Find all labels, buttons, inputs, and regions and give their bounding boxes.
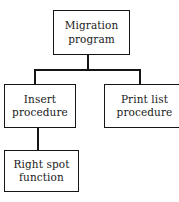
node-print-list-procedure[interactable]: Print list procedure (104, 84, 179, 128)
program-structure-diagram: Migration program Insert procedure Print… (0, 0, 179, 202)
connector-to-print-list-procedure (139, 69, 141, 85)
connector-to-insert-procedure (34, 69, 36, 85)
node-label-migration-program: Migration program (62, 19, 122, 46)
node-label-insert-procedure: Insert procedure (9, 93, 71, 120)
node-migration-program[interactable]: Migration program (53, 10, 130, 55)
connector-to-right-spot-function (37, 127, 39, 151)
node-insert-procedure[interactable]: Insert procedure (4, 84, 76, 128)
node-label-right-spot-function: Right spot function (11, 158, 73, 185)
connector-horizontal-bar (34, 69, 141, 71)
node-label-print-list-procedure: Print list procedure (114, 93, 176, 120)
node-right-spot-function[interactable]: Right spot function (4, 150, 79, 192)
